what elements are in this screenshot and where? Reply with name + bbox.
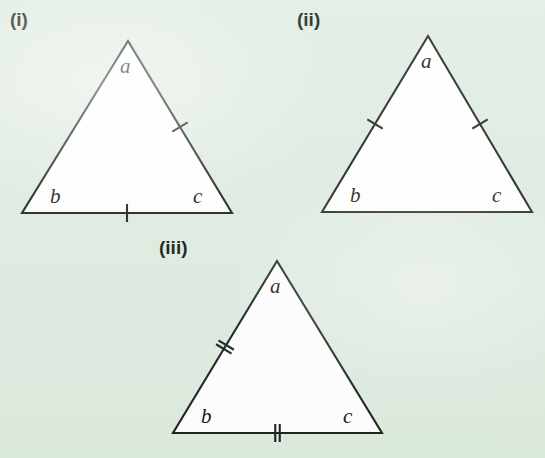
triangle-iii-label-bottom-right: c [343, 404, 353, 428]
triangle-ii-label-bottom-left: b [350, 183, 361, 207]
triangle-iii-roman-label: (iii) [159, 237, 188, 258]
triangle-i-roman-label: (i) [10, 9, 28, 30]
geometry-figure: (i)abc (ii)abc (iii)abc [0, 0, 545, 458]
triangle-i-label-apex: a [120, 54, 131, 78]
triangle-iii-label-apex: a [270, 274, 281, 298]
triangle-i-label-bottom-right: c [193, 184, 203, 208]
triangle-ii-label-apex: a [421, 49, 432, 73]
triangle-ii-label-bottom-right: c [492, 183, 502, 207]
triangle-iii-label-bottom-left: b [201, 404, 212, 428]
triangle-i-group: (i)abc [10, 9, 232, 222]
triangles-canvas: (i)abc (ii)abc (iii)abc [0, 0, 545, 458]
triangle-i-label-bottom-left: b [50, 184, 61, 208]
triangle-iii-group: (iii)abc [159, 237, 382, 442]
triangle-ii-roman-label: (ii) [297, 9, 320, 30]
triangle-ii-group: (ii)abc [297, 9, 532, 212]
